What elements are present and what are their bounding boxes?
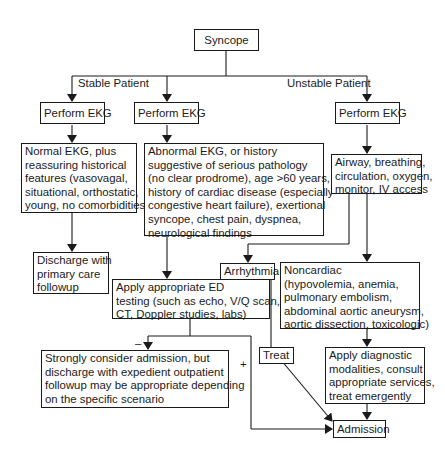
edge-label-negative: –	[135, 337, 141, 350]
line: Airway, breathing,	[335, 156, 418, 170]
label-stable-patient: Stable Patient	[78, 77, 149, 90]
line: abdominal aortic aneurysm,	[284, 305, 416, 319]
line: discharge with expedient outpatient	[45, 366, 225, 380]
line: situational, orthostatic,	[25, 186, 133, 200]
line: Normal EKG, plus	[25, 145, 133, 159]
node-treat: Treat	[259, 347, 294, 364]
line: CT, Doppler studies, labs)	[116, 308, 266, 322]
line: testing (such as echo, V/Q scan,	[116, 295, 266, 309]
line: Strongly consider admission, but	[45, 352, 225, 366]
node-abnormal-ekg: Abnormal EKG, or history suggestive of s…	[144, 143, 324, 236]
line: (no clear prodrome), age >60 years,	[148, 172, 320, 186]
line: Abnormal EKG, or history	[148, 145, 320, 159]
line: neurological findings	[148, 227, 320, 241]
line: features (vasovagal,	[25, 172, 133, 186]
edge-label-positive: +	[240, 358, 247, 371]
node-perform-ekg-abnormal: Perform EKG	[134, 102, 199, 124]
syncope-flowchart: Syncope Stable Patient Unstable Patient …	[0, 0, 445, 449]
line: appropriate services,	[329, 376, 421, 390]
line: young, no comorbidities)	[25, 199, 133, 213]
line: on the specific scenario	[45, 393, 225, 407]
line: aortic dissection, toxicologic)	[284, 318, 416, 332]
line: followup	[37, 281, 105, 295]
line: followup may be appropriate depending	[45, 379, 225, 393]
node-admission: Admission	[333, 420, 386, 438]
line: monitor, IV access	[335, 183, 418, 197]
line: Noncardiac	[284, 264, 416, 278]
line: treat emergently	[329, 390, 421, 404]
node-syncope: Syncope	[194, 29, 259, 51]
node-airway: Airway, breathing, circulation, oxygen, …	[331, 154, 422, 194]
line: circulation, oxygen,	[335, 170, 418, 184]
line: Apply diagnostic	[329, 349, 421, 363]
line: syncope, chest pain, dyspnea,	[148, 213, 320, 227]
node-perform-ekg-stable: Perform EKG	[40, 102, 105, 124]
line: pulmonary embolism,	[284, 291, 416, 305]
line: Apply appropriate ED	[116, 281, 266, 295]
node-noncardiac: Noncardiac (hypovolemia, anemia, pulmona…	[280, 262, 420, 329]
line: congestive heart failure), exertional	[148, 199, 320, 213]
line: primary care	[37, 268, 105, 282]
line: modalities, consult	[329, 363, 421, 377]
node-ed-testing: Apply appropriate ED testing (such as ec…	[112, 279, 270, 319]
line: suggestive of serious pathology	[148, 159, 320, 173]
node-consider-admission: Strongly consider admission, but dischar…	[41, 350, 229, 408]
node-arrhythmia: Arrhythmia	[220, 263, 275, 280]
node-perform-ekg-unstable: Perform EKG	[335, 102, 400, 124]
line: Discharge with	[37, 254, 105, 268]
line: reassuring historical	[25, 159, 133, 173]
label-unstable-patient: Unstable Patient	[287, 77, 371, 90]
node-normal-ekg: Normal EKG, plus reassuring historical f…	[21, 143, 137, 213]
node-discharge: Discharge with primary care followup	[33, 252, 109, 294]
node-diagnostic: Apply diagnostic modalities, consult app…	[325, 347, 425, 404]
line: history of cardiac disease (especially	[148, 186, 320, 200]
line: (hypovolemia, anemia,	[284, 278, 416, 292]
